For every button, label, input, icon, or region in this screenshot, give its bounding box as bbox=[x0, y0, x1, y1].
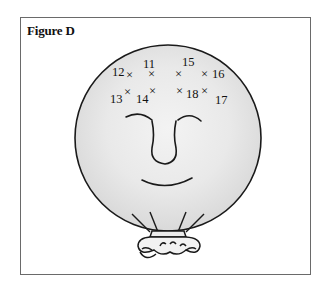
svg-text:×: × bbox=[175, 67, 182, 81]
svg-text:×: × bbox=[126, 68, 133, 82]
balloon-body bbox=[75, 45, 261, 231]
point-16: 16× bbox=[201, 67, 225, 81]
svg-text:×: × bbox=[149, 84, 156, 98]
svg-text:×: × bbox=[124, 85, 131, 99]
balloon-face-illustration: 11× 12× 13× 14× 15× 16× 17× 18× bbox=[0, 0, 336, 286]
svg-text:17: 17 bbox=[215, 93, 228, 107]
svg-text:14: 14 bbox=[136, 92, 149, 106]
svg-text:15: 15 bbox=[182, 55, 195, 69]
svg-text:16: 16 bbox=[212, 67, 225, 81]
svg-text:12: 12 bbox=[112, 65, 125, 79]
svg-text:×: × bbox=[201, 67, 208, 81]
svg-text:13: 13 bbox=[110, 92, 123, 106]
svg-text:×: × bbox=[176, 84, 183, 98]
balloon-knot bbox=[138, 231, 200, 258]
svg-text:18: 18 bbox=[186, 87, 199, 101]
svg-text:×: × bbox=[201, 84, 208, 98]
svg-text:×: × bbox=[148, 67, 155, 81]
